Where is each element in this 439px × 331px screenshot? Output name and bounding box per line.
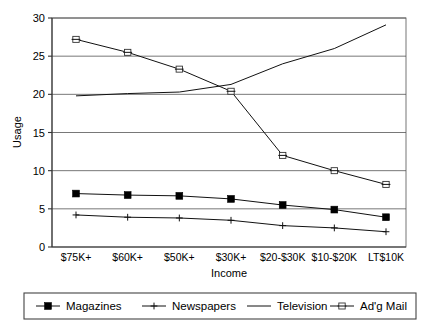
data-point-marker xyxy=(227,88,236,94)
y-axis-tick-label: 0 xyxy=(39,241,45,253)
data-point-marker xyxy=(124,192,131,199)
legend-label: Magazines xyxy=(66,300,122,312)
x-axis-tick-label: $20-$30K xyxy=(260,251,306,263)
y-axis-tick-marks xyxy=(48,18,52,247)
data-point-marker xyxy=(279,202,286,209)
data-point-marker xyxy=(73,190,80,197)
data-point-marker xyxy=(228,196,235,203)
legend-label: Television xyxy=(277,300,328,312)
x-axis-tick-label: $50K+ xyxy=(164,251,195,263)
y-axis-tick-label: 25 xyxy=(33,50,45,62)
y-axis-tick-label: 30 xyxy=(33,12,45,24)
y-axis-tick-labels: 051015202530 xyxy=(33,12,45,253)
data-point-marker xyxy=(330,168,339,174)
x-axis-tick-labels: $75K+$60K+$50K+$30K+$20-$30K$10-$20KLT$1… xyxy=(61,251,404,263)
data-point-marker xyxy=(382,181,391,187)
y-axis-tick-label: 5 xyxy=(39,203,45,215)
y-axis-tick-label: 10 xyxy=(33,165,45,177)
x-axis-tick-label: $60K+ xyxy=(112,251,143,263)
legend-label: Ad'g Mail xyxy=(360,300,407,312)
x-axis-title: Income xyxy=(211,267,247,279)
line-chart: 051015202530 $75K+$60K+$50K+$30K+$20-$30… xyxy=(0,0,439,331)
legend: MagazinesNewspapersTelevisionAd'g Mail xyxy=(24,293,416,319)
data-point-marker xyxy=(331,206,338,213)
y-axis-title: Usage xyxy=(11,116,23,148)
x-axis-tick-label: LT$10K xyxy=(368,251,404,263)
x-axis-tick-label: $30K+ xyxy=(216,251,247,263)
legend-label: Newspapers xyxy=(172,300,236,312)
data-point-marker xyxy=(278,152,287,158)
data-point-marker xyxy=(383,214,390,221)
y-axis-tick-label: 15 xyxy=(33,127,45,139)
data-point-marker xyxy=(175,66,184,72)
chart-container: 051015202530 $75K+$60K+$50K+$30K+$20-$30… xyxy=(0,0,439,331)
data-point-marker xyxy=(45,303,52,310)
x-axis-tick-label: $75K+ xyxy=(61,251,92,263)
data-point-marker xyxy=(72,36,81,42)
data-point-marker xyxy=(338,303,347,309)
data-point-marker xyxy=(176,192,183,199)
data-point-marker xyxy=(123,49,132,55)
y-axis-tick-label: 20 xyxy=(33,88,45,100)
x-axis-tick-label: $10-$20K xyxy=(312,251,358,263)
